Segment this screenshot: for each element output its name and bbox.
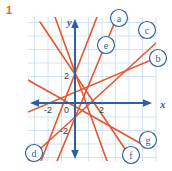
line-tag-c-label: c (145, 25, 150, 36)
line-tag-d-label: d (32, 148, 37, 159)
line-tag-e[interactable]: e (98, 37, 115, 54)
line-tag-f[interactable]: f (123, 147, 140, 164)
line-tag-a-label: a (117, 13, 122, 24)
coordinate-plane-graph: x y -2 2 0 2 -2 a c e b (0, 0, 172, 171)
line-tag-g-label: g (146, 135, 151, 146)
line-tag-c[interactable]: c (139, 22, 156, 39)
origin-label: 0 (64, 105, 69, 115)
x-axis-label: x (159, 98, 166, 110)
line-tag-e-label: e (104, 40, 109, 51)
line-tag-a[interactable]: a (111, 10, 128, 27)
line-tag-g[interactable]: g (140, 132, 157, 149)
plot-background (28, 17, 156, 161)
exercise-number: 1 (6, 5, 12, 16)
x-tick-label-neg2: -2 (44, 105, 52, 115)
y-tick-label-2: 2 (64, 71, 69, 81)
line-tag-b-label: b (156, 53, 161, 64)
y-tick-label-neg2: -2 (60, 126, 68, 136)
line-tag-d[interactable]: d (26, 145, 43, 162)
y-axis-label: y (65, 16, 72, 28)
line-tag-b[interactable]: b (150, 50, 167, 67)
graph-figure: 1 (0, 0, 172, 171)
x-tick-label-2: 2 (99, 105, 104, 115)
